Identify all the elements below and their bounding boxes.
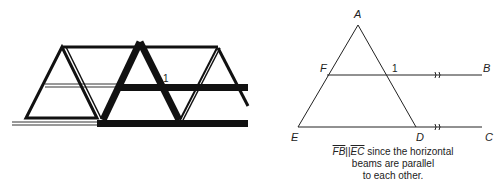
caption-line-2: beams are parallel	[328, 158, 458, 170]
point-d-label: D	[416, 131, 424, 143]
caption-text-1: since the horizontal	[364, 146, 453, 157]
point-c-label: C	[485, 131, 493, 143]
caption-line-3: to each other.	[328, 170, 458, 182]
truss-figure: 1	[12, 42, 248, 127]
point-f-label: F	[320, 62, 328, 74]
segment-fb: FB	[333, 146, 346, 157]
segment-ec: EC	[351, 146, 365, 157]
geometry-angle-label: 1	[392, 63, 398, 74]
truss-angle-label: 1	[163, 73, 169, 84]
point-e-label: E	[291, 131, 299, 143]
figure-caption: FB||EC since the horizontal beams are pa…	[328, 146, 458, 182]
point-b-label: B	[483, 62, 490, 74]
point-a-label: A	[353, 8, 361, 20]
geometry-figure: A F 1 B E D C	[291, 8, 493, 143]
caption-line-1: FB||EC since the horizontal	[328, 146, 458, 158]
